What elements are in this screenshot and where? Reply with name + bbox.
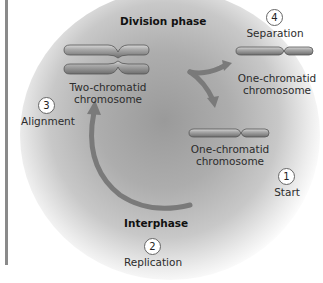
two-chromatid-label-line2: chromosome (60, 93, 156, 105)
step-4-badge: 4 (266, 9, 283, 26)
division-phase-title: Division phase (120, 15, 206, 27)
arrow-to-separation-icon (190, 65, 226, 73)
two-chromatid-label: Two-chromatid chromosome (60, 81, 156, 105)
step-3-badge: 3 (38, 97, 55, 114)
one-chromatid-top-label-line2: chromosome (232, 84, 322, 96)
one-chromatid-bottom-label-line2: chromosome (185, 155, 275, 167)
step-3-label: Alignment (18, 115, 78, 127)
step-1-badge: 1 (278, 168, 295, 185)
arrow-to-start-icon (190, 72, 213, 100)
interphase-title: Interphase (124, 217, 188, 229)
two-chromatid-label-line1: Two-chromatid (60, 81, 156, 93)
one-chromatid-chromosome-bottom-icon (189, 129, 269, 137)
one-chromatid-bottom-label: One-chromatid chromosome (185, 143, 275, 167)
two-chromatid-chromosome-icon (64, 45, 149, 74)
cycle-artwork (0, 0, 323, 283)
step-1-label: Start (270, 186, 304, 198)
one-chromatid-chromosome-top-icon (236, 47, 313, 55)
cycle-arrow-icon (92, 112, 190, 208)
step-2-label: Replication (118, 256, 188, 268)
step-4-label: Separation (240, 27, 310, 39)
step-2-badge: 2 (144, 238, 161, 255)
one-chromatid-top-label: One-chromatid chromosome (232, 72, 322, 96)
one-chromatid-bottom-label-line1: One-chromatid (185, 143, 275, 155)
one-chromatid-top-label-line1: One-chromatid (232, 72, 322, 84)
